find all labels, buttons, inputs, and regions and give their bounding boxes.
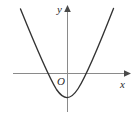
- x-axis-arrowhead: [124, 70, 131, 77]
- y-axis-label: y: [56, 3, 62, 15]
- x-axis-label: x: [119, 78, 125, 90]
- origin-label: O: [57, 75, 65, 87]
- y-axis-arrowhead: [64, 5, 71, 12]
- parabola-figure: y x O: [0, 0, 133, 120]
- coordinate-plane-svg: y x O: [0, 0, 133, 120]
